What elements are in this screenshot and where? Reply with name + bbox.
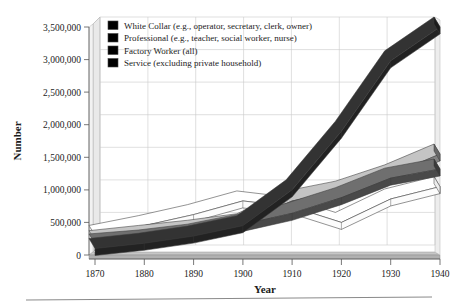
x-tick-label: 1870 (86, 269, 105, 279)
right-wall (435, 17, 440, 255)
y-axis (84, 27, 89, 255)
legend-swatch-service (108, 59, 118, 68)
legend-label: Service (excluding private household) (124, 58, 261, 68)
x-tick-label: 1940 (431, 269, 450, 279)
y-tick-label: 2,500,000 (43, 88, 81, 98)
x-axis (89, 259, 440, 265)
chart-canvas: 3,500,000 3,000,000 2,500,000 2,000,000 … (0, 0, 457, 305)
x-tick-labels: 1870 1880 1890 1900 1910 1920 1930 1940 (86, 269, 450, 279)
legend-swatch-professional (108, 34, 118, 43)
legend-item: Professional (e.g., teacher, social work… (108, 33, 297, 43)
y-tick-labels: 3,500,000 3,000,000 2,500,000 2,000,000 … (43, 23, 81, 261)
legend-label: Factory Worker (all) (124, 46, 198, 56)
x-tick-label: 1910 (283, 269, 302, 279)
legend-item: Service (excluding private household) (108, 58, 261, 68)
y-axis-title: Number (11, 121, 23, 160)
bottom-divider-rule (26, 297, 432, 300)
legend-label: Professional (e.g., teacher, social work… (124, 33, 297, 43)
y-tick-label: 3,000,000 (43, 55, 81, 65)
legend-swatch-factory-worker (108, 46, 118, 55)
y-tick-label: 3,500,000 (43, 23, 81, 33)
y-tick-label: 1,500,000 (43, 153, 81, 163)
y-tick-label: 500,000 (50, 218, 81, 228)
x-tick-label: 1890 (184, 269, 203, 279)
x-axis-title: Year (254, 283, 276, 295)
floor-slab-top (89, 252, 440, 255)
left-wall-inner (89, 24, 93, 255)
y-tick-label: 0 (76, 251, 81, 261)
y-tick-label: 1,000,000 (43, 185, 81, 195)
left-wall (93, 17, 100, 252)
x-tick-label: 1930 (381, 269, 400, 279)
legend-label: White Collar (e.g., operator, secretary,… (124, 21, 312, 31)
legend-swatch-white-collar (108, 21, 118, 30)
legend-item: White Collar (e.g., operator, secretary,… (108, 21, 312, 31)
x-tick-label: 1920 (332, 269, 351, 279)
x-tick-label: 1880 (135, 269, 154, 279)
y-tick-label: 2,000,000 (43, 120, 81, 130)
floor-slab-front (89, 255, 440, 259)
x-tick-label: 1900 (233, 269, 252, 279)
chart-figure: 3,500,000 3,000,000 2,500,000 2,000,000 … (0, 0, 457, 305)
